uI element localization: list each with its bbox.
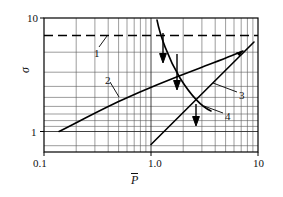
curve-label-4: 4 [225, 110, 231, 122]
x-axis-label: P [131, 173, 138, 188]
curve-label-2: 2 [105, 74, 111, 86]
xtick-label-min: 0.1 [33, 157, 47, 169]
curve-label-3: 3 [239, 89, 245, 101]
curve-label-1: 1 [94, 47, 100, 59]
xtick-label-mid: 1.0 [148, 157, 162, 169]
ytick-label-max: 10 [27, 12, 38, 24]
y-axis-label: σ [18, 67, 33, 73]
ytick-label-min: 1 [31, 126, 37, 138]
x-axis-label-text: P [131, 173, 138, 187]
xtick-label-max: 10 [253, 157, 264, 169]
